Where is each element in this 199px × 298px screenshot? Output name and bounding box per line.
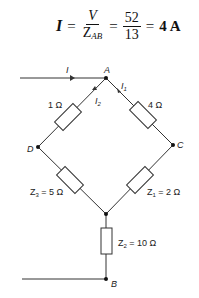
label-resistor-1ohm: 1 Ω [48, 100, 63, 110]
label-node-c: C [177, 140, 184, 150]
node-d-dot [36, 145, 40, 149]
label-node-a: A [103, 65, 110, 75]
label-resistor-4ohm: 4 Ω [148, 100, 163, 110]
bridge-circuit-diagram: I A I1 I2 1 Ω 4 Ω D C Z3 = 5 Ω Z1 = 2 Ω … [0, 0, 199, 298]
label-z3: Z3 = 5 Ω [30, 187, 64, 198]
resistor-z2 [101, 228, 112, 254]
node-a-dot [104, 76, 108, 80]
node-b-dot [104, 277, 108, 281]
arrow-current-i-icon [70, 75, 75, 81]
label-current-i2: I2 [95, 96, 102, 107]
label-node-b: B [111, 279, 117, 289]
label-current-i: I [66, 65, 69, 75]
label-node-d: D [27, 144, 34, 154]
label-z2: Z2 = 10 Ω [118, 238, 157, 249]
node-star-dot [104, 212, 108, 216]
label-current-i1: I1 [121, 81, 127, 92]
node-c-dot [171, 143, 175, 147]
label-z1: Z1 = 2 Ω [147, 187, 181, 198]
